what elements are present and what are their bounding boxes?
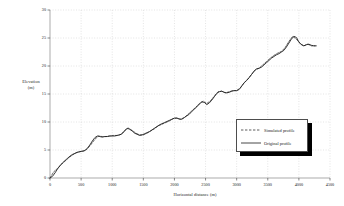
x-tick-label: 4500 (320, 182, 340, 187)
x-tick-label: 4000 (289, 182, 309, 187)
y-tick-label: 10 (32, 119, 46, 124)
series-line-original (50, 36, 316, 178)
legend-label-simulated: Simulated profile (264, 128, 295, 133)
y-axis-title: Elevation (m) (14, 79, 48, 90)
legend-swatch-solid-icon (241, 139, 261, 147)
x-tick-label: 1500 (133, 182, 153, 187)
data-series (50, 36, 316, 178)
y-tick-label: 15 (32, 91, 46, 96)
x-axis-title: Horizontal distance (m) (120, 192, 270, 198)
legend-item-original: Original profile (237, 136, 309, 150)
x-tick-label: 500 (71, 182, 91, 187)
x-tick-label: 0 (40, 182, 60, 187)
chart-figure: Elevation (m) Horizontal distance (m) 05… (0, 0, 344, 206)
chart-canvas (0, 0, 344, 206)
series-line-simulated (50, 36, 315, 178)
x-tick-label: 2500 (196, 182, 216, 187)
y-tick-label: 30 (32, 7, 46, 12)
y-tick-label: 5 (32, 147, 46, 152)
x-tick-label: 1000 (102, 182, 122, 187)
legend-box: Simulated profile Original profile (236, 119, 308, 152)
y-axis-title-line2: (m) (14, 85, 48, 91)
y-tick-label: 0 (32, 175, 46, 180)
x-tick-label: 2000 (164, 182, 184, 187)
legend-swatch-dashed-icon (241, 126, 261, 134)
chart-legend: Simulated profile Original profile (236, 119, 308, 152)
legend-item-simulated: Simulated profile (237, 123, 309, 137)
y-tick-label: 20 (32, 63, 46, 68)
x-tick-label: 3000 (227, 182, 247, 187)
x-tick-label: 3500 (258, 182, 278, 187)
y-tick-label: 25 (32, 35, 46, 40)
legend-label-original: Original profile (264, 141, 291, 146)
